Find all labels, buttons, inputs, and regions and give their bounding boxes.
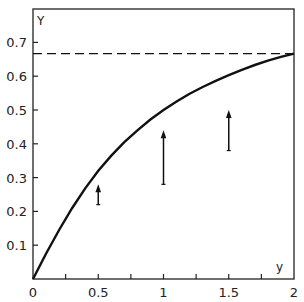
y-tick-label: 0.3 [6, 171, 27, 186]
arrow-icon [161, 130, 167, 184]
y-axis-label: Y [36, 14, 45, 28]
x-tick-label: 0.5 [88, 285, 109, 300]
x-tick-label: 0 [29, 285, 37, 300]
y-tick-label: 0.2 [6, 204, 27, 219]
x-axis-label: y [276, 260, 283, 274]
y-tick-label: 0.1 [6, 238, 27, 253]
x-tick-label: 1.5 [218, 285, 239, 300]
chart: 00.511.52 0.10.20.30.40.50.60.7 Y y [0, 0, 304, 302]
y-tick-label: 0.7 [6, 35, 27, 50]
x-axis-ticks: 00.511.52 [29, 274, 298, 300]
x-tick-label: 1 [159, 285, 167, 300]
y-tick-label: 0.6 [6, 69, 27, 84]
arrow-icon [226, 110, 232, 151]
arrow-icon [95, 184, 101, 204]
arrows-group [95, 110, 231, 205]
x-tick-label: 2 [290, 285, 298, 300]
y-tick-label: 0.4 [6, 137, 27, 152]
y-tick-label: 0.5 [6, 103, 27, 118]
